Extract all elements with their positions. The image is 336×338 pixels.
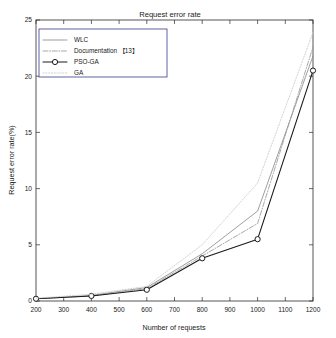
chart-figure: Request error rate 200300400500600700800…: [0, 0, 336, 338]
x-tick-label: 700: [169, 306, 180, 313]
data-point-marker: [310, 68, 315, 73]
data-point-marker: [255, 237, 260, 242]
x-tick-label: 300: [58, 306, 69, 313]
legend-label-wlc: WLC: [74, 36, 89, 43]
data-point-marker: [33, 296, 38, 301]
x-tick-label: 1200: [306, 306, 321, 313]
x-tick-label: 200: [30, 306, 41, 313]
data-point-marker: [200, 256, 205, 261]
y-tick-label: 0: [28, 297, 32, 304]
y-axis-label: Request error rate(%): [7, 125, 16, 195]
y-tick-label: 10: [25, 185, 33, 192]
x-axis-label: Number of requests: [142, 323, 206, 332]
x-tick-label: 1100: [278, 306, 293, 313]
legend-label-documentation-13: Documentation 【13】: [74, 47, 138, 54]
y-tick-label: 5: [28, 241, 32, 248]
page-title: Request error rate: [139, 10, 201, 19]
legend-label-ga: GA: [74, 69, 84, 76]
x-tick-label: 500: [114, 306, 125, 313]
legend-marker: [52, 59, 57, 64]
x-tick-label: 1000: [250, 306, 265, 313]
request-error-rate-chart: Request error rate 200300400500600700800…: [0, 0, 336, 338]
x-tick-label: 600: [141, 306, 152, 313]
legend-label-pso-ga: PSO-GA: [74, 58, 100, 65]
chart-legend: WLCDocumentation 【13】PSO-GAGA: [39, 29, 167, 77]
data-point-marker: [144, 287, 149, 292]
y-tick-label: 20: [25, 73, 33, 80]
x-tick-label: 900: [224, 306, 235, 313]
y-tick-label: 15: [25, 129, 33, 136]
x-tick-label: 400: [86, 306, 97, 313]
x-tick-label: 800: [197, 306, 208, 313]
y-tick-label: 25: [25, 16, 33, 23]
